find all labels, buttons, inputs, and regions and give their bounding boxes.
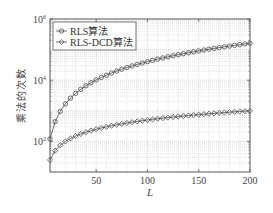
chart-canvas: 50100150200102104106 RLS算法RLS-DCD算法 乘法的次… [0,0,273,213]
x-tick-label: 200 [243,175,258,186]
y-tick-label: 106 [33,14,46,25]
y-tick-label: 102 [33,136,46,147]
legend-label: RLS算法 [70,25,108,37]
x-axis-label: L [147,186,153,198]
x-tick-label: 100 [140,175,155,186]
y-tick-label: 104 [33,75,46,86]
legend: RLS算法RLS-DCD算法 [53,22,136,50]
series-rls-dcd [47,108,252,162]
plot-area: 50100150200102104106 RLS算法RLS-DCD算法 [0,0,273,213]
legend-label: RLS-DCD算法 [70,36,133,48]
x-tick-label: 50 [91,175,101,186]
series-rls [48,41,252,141]
y-axis-label: 乘法的次数 [13,68,28,123]
x-tick-label: 150 [191,175,206,186]
